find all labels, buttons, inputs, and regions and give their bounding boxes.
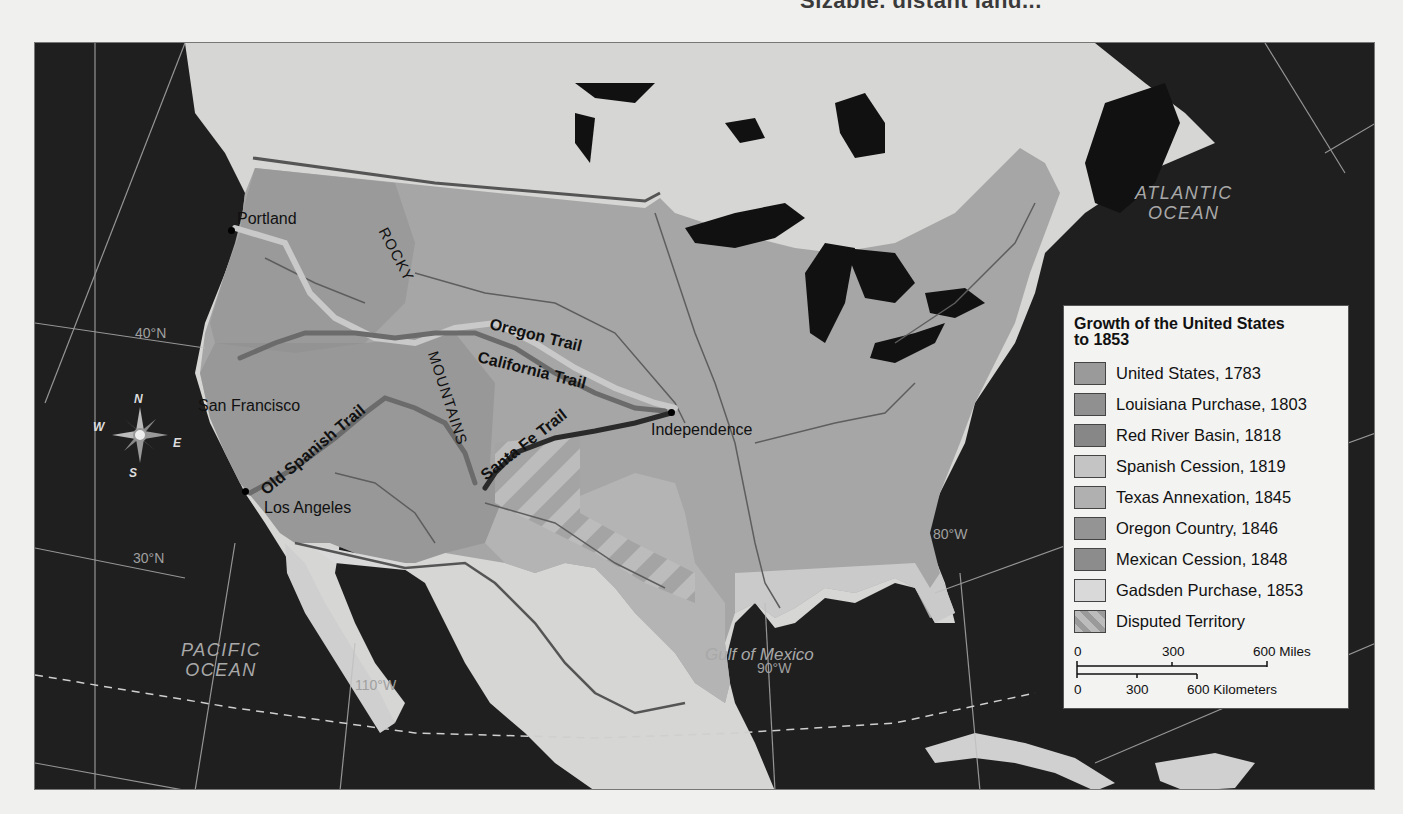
legend-swatch xyxy=(1074,424,1106,447)
legend-label: Oregon Country, 1846 xyxy=(1116,519,1278,538)
legend-item: Mexican Cession, 1848 xyxy=(1074,544,1338,575)
legend-label: United States, 1783 xyxy=(1116,364,1261,383)
legend-label: Texas Annexation, 1845 xyxy=(1116,488,1291,507)
compass-east: E xyxy=(173,436,181,450)
city-label-independence: Independence xyxy=(651,421,752,439)
label-atlantic-ocean: ATLANTIC OCEAN xyxy=(1135,183,1233,223)
legend-title-line-1: Growth of the United States xyxy=(1074,316,1338,332)
scale-km-300: 300 xyxy=(1126,682,1149,697)
page-header-fragment: Sizable, distant land... xyxy=(800,0,1320,8)
compass-north: N xyxy=(134,392,143,406)
legend-label: Red River Basin, 1818 xyxy=(1116,426,1281,445)
legend-item: Spanish Cession, 1819 xyxy=(1074,451,1338,482)
legend-swatch xyxy=(1074,486,1106,509)
pacific-line-2: OCEAN xyxy=(181,660,261,680)
legend-item: Disputed Territory xyxy=(1074,606,1338,637)
label-pacific-ocean: PACIFIC OCEAN xyxy=(181,640,261,680)
legend-item: Gadsden Purchase, 1853 xyxy=(1074,575,1338,606)
city-dot-independence xyxy=(668,409,675,416)
legend-swatch xyxy=(1074,517,1106,540)
scale-km-600: 600 Kilometers xyxy=(1187,682,1277,697)
scale-miles-600: 600 Miles xyxy=(1253,644,1311,659)
scale-miles-300: 300 xyxy=(1162,644,1185,659)
legend-swatch xyxy=(1074,362,1106,385)
scale-bar: 0 300 600 Miles 0 300 600 Kilometers xyxy=(1074,644,1334,706)
city-label-portland: Portland xyxy=(237,210,297,228)
legend-label: Mexican Cession, 1848 xyxy=(1116,550,1288,569)
legend-label: Spanish Cession, 1819 xyxy=(1116,457,1286,476)
legend-title: Growth of the United States to 1853 xyxy=(1074,316,1338,348)
coord-40n: 40°N xyxy=(135,325,166,341)
city-label-los-angeles: Los Angeles xyxy=(264,499,351,517)
scale-km-0: 0 xyxy=(1074,682,1082,697)
city-dot-portland xyxy=(228,227,235,234)
legend-items: United States, 1783Louisiana Purchase, 1… xyxy=(1074,358,1338,637)
legend-swatch xyxy=(1074,548,1106,571)
legend-label: Gadsden Purchase, 1853 xyxy=(1116,581,1303,600)
legend-swatch xyxy=(1074,610,1106,633)
legend-label: Disputed Territory xyxy=(1116,612,1245,631)
scale-miles-0: 0 xyxy=(1074,644,1082,659)
legend-swatch xyxy=(1074,579,1106,602)
city-label-san-francisco: San Francisco xyxy=(198,397,300,415)
compass-south: S xyxy=(129,466,137,480)
legend-swatch xyxy=(1074,393,1106,416)
coord-110w: 110°W xyxy=(355,677,396,693)
legend-item: Red River Basin, 1818 xyxy=(1074,420,1338,451)
legend-label: Louisiana Purchase, 1803 xyxy=(1116,395,1307,414)
legend-item: Louisiana Purchase, 1803 xyxy=(1074,389,1338,420)
scale-lines xyxy=(1076,660,1276,684)
legend-swatch xyxy=(1074,455,1106,478)
coord-80w: 80°W xyxy=(933,526,967,542)
atlantic-line-2: OCEAN xyxy=(1135,203,1233,223)
compass-west: W xyxy=(93,420,104,434)
map-legend: Growth of the United States to 1853 Unit… xyxy=(1063,305,1349,709)
pacific-line-1: PACIFIC xyxy=(181,640,261,660)
coord-30n: 30°N xyxy=(133,550,164,566)
legend-item: United States, 1783 xyxy=(1074,358,1338,389)
legend-item: Texas Annexation, 1845 xyxy=(1074,482,1338,513)
legend-item: Oregon Country, 1846 xyxy=(1074,513,1338,544)
legend-title-line-2: to 1853 xyxy=(1074,332,1338,348)
atlantic-line-1: ATLANTIC xyxy=(1135,183,1233,203)
city-dot-los-angeles xyxy=(242,488,249,495)
coord-90w: 90°W xyxy=(757,660,791,676)
